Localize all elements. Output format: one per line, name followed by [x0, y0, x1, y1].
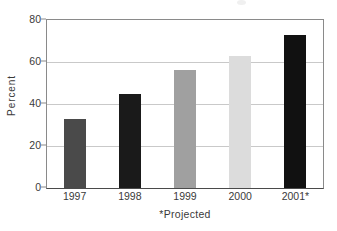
y-axis-tick-mark — [41, 145, 46, 146]
bar-slot — [157, 20, 212, 188]
bar[interactable] — [174, 70, 196, 188]
x-axis-tick-label: 2001* — [268, 190, 323, 202]
bar[interactable] — [284, 35, 306, 188]
bar-slot — [213, 20, 268, 188]
bar-chart-figure: Percent 020406080 19971998199920002001* … — [0, 0, 337, 231]
y-axis-tick-mark — [41, 19, 46, 20]
y-axis-tick-mark — [41, 187, 46, 188]
x-axis-tick-label: 1997 — [47, 190, 102, 202]
x-axis-tick-labels: 19971998199920002001* — [47, 190, 323, 202]
bar[interactable] — [119, 94, 141, 189]
y-axis-title-label: Percent — [6, 75, 17, 116]
y-axis-tick-mark — [41, 103, 46, 104]
x-axis-caption: *Projected — [47, 208, 323, 220]
x-axis-tick-label: 1999 — [157, 190, 212, 202]
plot-area — [46, 19, 324, 189]
x-axis-tick-label: 1998 — [102, 190, 157, 202]
bar-slot — [47, 20, 102, 188]
scan-artifact — [237, 0, 246, 5]
x-axis-tick-label: 2000 — [213, 190, 268, 202]
bar-slot — [102, 20, 157, 188]
y-axis-tick-mark — [41, 61, 46, 62]
bar-slot — [268, 20, 323, 188]
bar[interactable] — [64, 119, 86, 188]
bar[interactable] — [229, 56, 251, 188]
y-axis-tick-labels: 020406080 — [18, 0, 44, 231]
bars-layer — [47, 20, 323, 188]
